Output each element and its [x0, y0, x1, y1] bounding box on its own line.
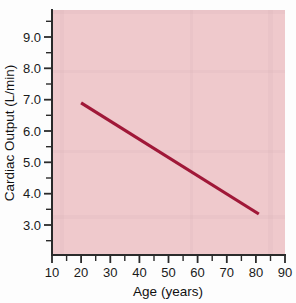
- x-tick-label-80: 80: [249, 265, 263, 280]
- y-tick-label-7: 7.0: [23, 92, 41, 107]
- x-tick-label-70: 70: [220, 265, 234, 280]
- y-axis-title: Cardiac Output (L/min): [2, 65, 17, 202]
- x-tick-label-90: 90: [278, 265, 292, 280]
- x-tick-label-40: 40: [132, 265, 146, 280]
- cardiac-output-line-chart: 3.0 4.0 5.0 6.0 7.0 8.0 9.0 Cardiac Outp…: [0, 0, 296, 303]
- x-axis-title: Age (years): [133, 284, 203, 299]
- x-tick-label-60: 60: [190, 265, 204, 280]
- x-tick-label-20: 20: [74, 265, 88, 280]
- y-tick-label-3: 3.0: [23, 218, 41, 233]
- x-tick-label-10: 10: [45, 265, 59, 280]
- y-tick-label-4: 4.0: [23, 186, 41, 201]
- y-tick-label-6: 6.0: [23, 124, 41, 139]
- x-tick-label-50: 50: [161, 265, 175, 280]
- y-tick-label-9: 9.0: [23, 30, 41, 45]
- y-tick-label-8: 8.0: [23, 61, 41, 76]
- x-tick-label-30: 30: [103, 265, 117, 280]
- y-tick-label-5: 5.0: [23, 155, 41, 170]
- x-axis-tick-labels: 10 20 30 40 50 60 70 80 90: [45, 265, 292, 280]
- figure-container: 3.0 4.0 5.0 6.0 7.0 8.0 9.0 Cardiac Outp…: [0, 0, 296, 303]
